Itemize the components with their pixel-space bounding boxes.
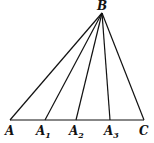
segment-ba [10,13,102,120]
label-a3: A3 [103,124,119,140]
label-a2: A2 [68,124,84,140]
label-c: C [139,124,149,138]
triangle-diagram: B A A1 A2 A3 C [0,0,154,143]
label-a: A [4,124,14,138]
label-b: B [96,0,107,13]
segment-ba2 [76,13,102,120]
label-a1: A1 [35,124,51,140]
segment-ba1 [45,13,102,120]
